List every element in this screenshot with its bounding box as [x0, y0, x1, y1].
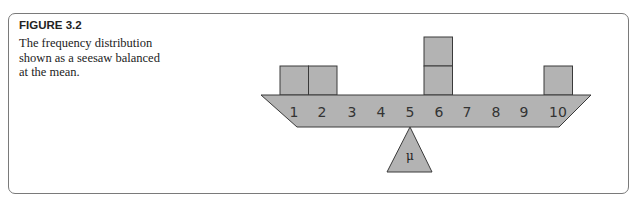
tick-6: 6 [435, 104, 444, 120]
block-score-6-upper [424, 37, 453, 66]
tick-7: 7 [463, 104, 472, 120]
tick-4: 4 [377, 104, 386, 120]
block-score-2 [309, 66, 338, 95]
block-score-6-lower [424, 66, 453, 95]
tick-8: 8 [492, 104, 501, 120]
tick-2: 2 [318, 104, 327, 120]
tick-10: 10 [549, 104, 567, 120]
tick-9: 9 [520, 104, 529, 120]
tick-3: 3 [348, 104, 357, 120]
tick-5: 5 [406, 104, 415, 120]
seesaw-beam [261, 95, 591, 127]
tick-1: 1 [290, 104, 299, 120]
mean-symbol: μ [406, 149, 414, 163]
block-score-10 [544, 66, 573, 95]
seesaw-diagram: 1 2 3 4 5 6 7 8 9 10 μ [0, 0, 641, 203]
block-score-1 [280, 66, 309, 95]
frequency-blocks [280, 37, 573, 95]
